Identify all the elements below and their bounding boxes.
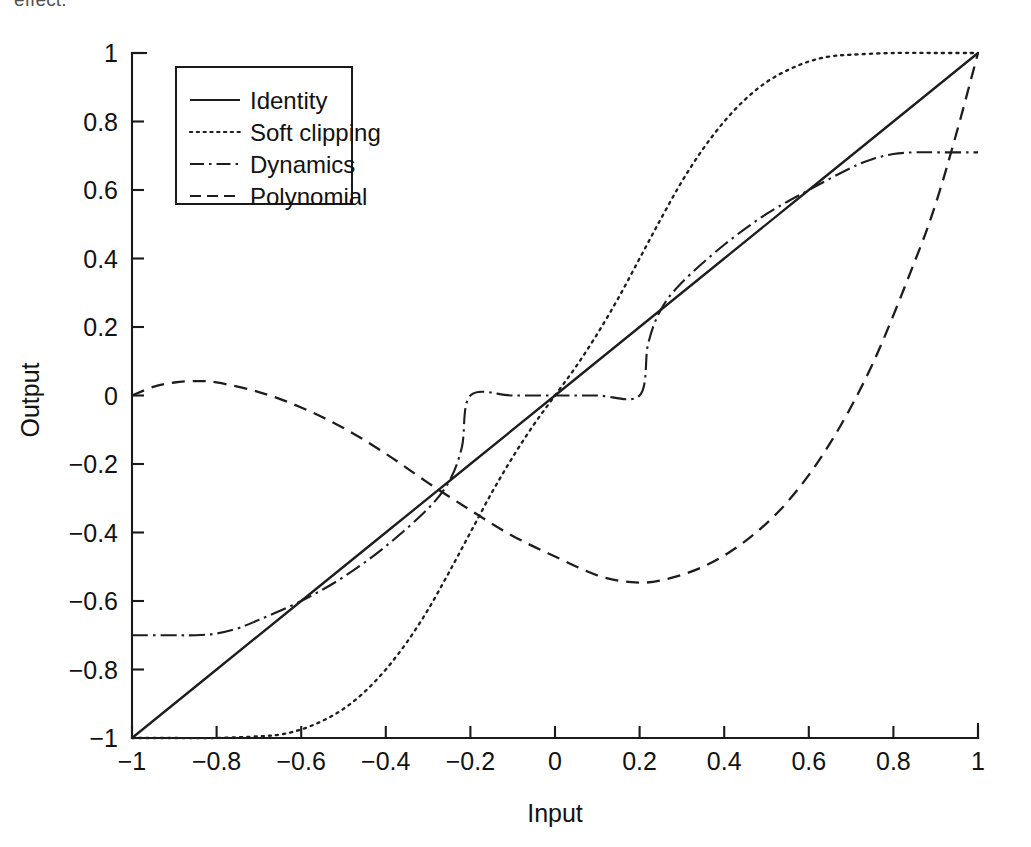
figure-page: effect. −1−0.8−0.6−0.4−0.200.20.40.60.81… [0, 0, 1031, 847]
y-tick-label: −0.2 [69, 450, 118, 478]
legend-label-dynamics[interactable]: Dynamics [250, 151, 355, 178]
x-tick-label: −0.4 [361, 747, 410, 775]
y-tick-label: 0.2 [83, 313, 118, 341]
y-tick-label: −0.6 [69, 587, 118, 615]
y-tick-label: 0.4 [83, 245, 118, 273]
x-tick-label: 0 [548, 747, 562, 775]
x-tick-label: 0.2 [622, 747, 657, 775]
legend-label-polynomial[interactable]: Polynomial [250, 183, 367, 210]
y-tick-label: 0.6 [83, 176, 118, 204]
legend-label-identity[interactable]: Identity [250, 87, 327, 114]
y-tick-label: 0 [104, 382, 118, 410]
x-tick-label: 0.4 [707, 747, 742, 775]
y-tick-label: 0.8 [83, 108, 118, 136]
legend-label-soft-clipping[interactable]: Soft clipping [250, 119, 381, 146]
x-tick-label: 0.8 [876, 747, 911, 775]
x-tick-label: 1 [971, 747, 985, 775]
chart-legend[interactable]: IdentitySoft clippingDynamicsPolynomial [176, 67, 381, 210]
y-tick-label: −0.8 [69, 656, 118, 684]
y-axis-title: Output [16, 362, 44, 437]
y-tick-label: 1 [104, 39, 118, 67]
y-tick-label: −0.4 [69, 519, 118, 547]
transfer-function-chart: −1−0.8−0.6−0.4−0.200.20.40.60.81 −1−0.8−… [0, 0, 1031, 847]
x-tick-label: 0.6 [791, 747, 826, 775]
x-tick-label: −0.8 [192, 747, 241, 775]
y-tick-label: −1 [89, 724, 118, 752]
x-tick-label: −1 [118, 747, 147, 775]
x-tick-label: −0.6 [277, 747, 326, 775]
x-tick-label: −0.2 [446, 747, 495, 775]
x-axis-title: Input [527, 799, 583, 827]
x-axis-ticks: −1−0.8−0.6−0.4−0.200.20.40.60.81 [118, 726, 985, 775]
